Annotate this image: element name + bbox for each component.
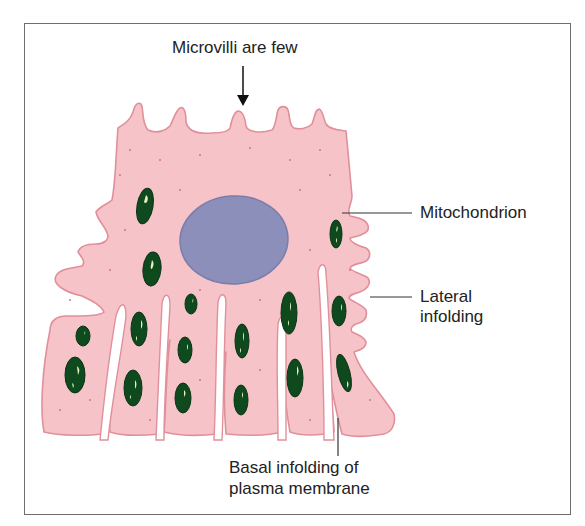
label-lateral-infolding-2: infolding <box>420 307 483 327</box>
label-lateral-infolding-1: Lateral <box>420 287 472 307</box>
label-basal-infolding-1: Basal infolding of <box>229 458 358 478</box>
cell-diagram <box>0 0 585 526</box>
label-basal-infolding-2: plasma membrane <box>229 479 370 499</box>
label-microvilli: Microvilli are few <box>172 38 298 58</box>
label-mitochondrion: Mitochondrion <box>420 203 527 223</box>
microvilli-arrowhead-icon <box>237 95 249 106</box>
